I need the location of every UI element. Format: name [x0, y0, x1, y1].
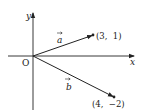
x-axis-label: x	[130, 57, 135, 67]
origin-label: O	[22, 58, 29, 68]
vector-diagram: y x O a b (3, 1) (4, −2)	[0, 0, 144, 112]
point-a-label: (3, 1)	[96, 31, 122, 41]
point-a	[92, 34, 95, 37]
point-b	[113, 96, 116, 99]
vector-a-label: a	[57, 32, 62, 45]
diagram-svg: y x O a b (3, 1) (4, −2)	[0, 0, 144, 112]
y-axis-label: y	[25, 11, 32, 21]
svg-text:a: a	[57, 35, 62, 45]
vector-b-label: b	[65, 78, 72, 92]
svg-text:b: b	[66, 82, 72, 92]
vector-b	[33, 56, 113, 97]
point-b-label: (4, −2)	[92, 99, 125, 109]
vector-a	[33, 36, 92, 57]
